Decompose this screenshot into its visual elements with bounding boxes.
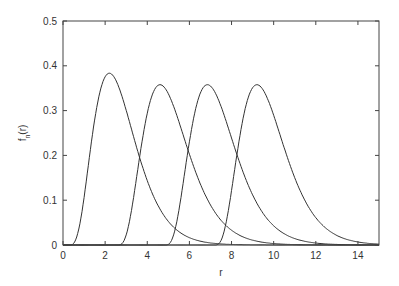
x-axis: 02468101214 [60,21,364,261]
curve-2 [63,85,379,245]
line-chart: 02468101214 00.10.20.30.40.5 r fn(r) [0,0,399,286]
y-tick-label: 0 [51,240,57,251]
y-axis-label: fn(r) [17,125,31,142]
y-axis: 00.10.20.30.40.5 [43,16,379,251]
x-tick-label: 4 [144,250,150,261]
curves [63,73,379,245]
curve-1 [63,73,379,245]
y-tick-label: 0.1 [43,195,57,206]
x-tick-label: 10 [268,250,280,261]
y-tick-label: 0.3 [43,105,57,116]
x-tick-label: 6 [187,250,193,261]
y-tick-label: 0.2 [43,150,57,161]
x-tick-label: 8 [229,250,235,261]
y-tick-label: 0.4 [43,60,57,71]
x-tick-label: 12 [310,250,322,261]
x-tick-label: 14 [352,250,364,261]
x-axis-label: r [219,267,223,278]
plot-frame [63,21,379,245]
y-tick-label: 0.5 [43,16,57,27]
x-tick-label: 2 [102,250,108,261]
x-tick-label: 0 [60,250,66,261]
